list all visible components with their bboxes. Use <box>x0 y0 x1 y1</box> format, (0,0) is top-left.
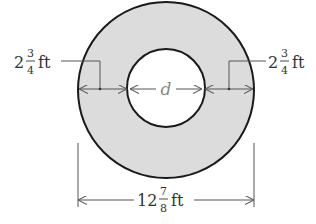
outer-diameter-unit: ft <box>171 191 184 210</box>
right-width-unit: ft <box>292 53 305 72</box>
inner-diameter-label: d <box>161 79 172 99</box>
left-width-label: 2 3 4 ft <box>14 47 51 77</box>
right-width-denominator: 4 <box>281 64 288 77</box>
right-width-numerator: 3 <box>281 47 288 60</box>
left-width-unit: ft <box>38 53 51 72</box>
left-width-whole: 2 <box>14 53 24 72</box>
outer-diameter-denominator: 8 <box>160 202 167 215</box>
outer-diameter-whole: 12 <box>137 191 157 210</box>
outer-diameter-numerator: 7 <box>160 185 167 198</box>
left-width-denominator: 4 <box>27 64 34 77</box>
annulus-diagram: d 2 3 4 ft 2 3 4 ft 12 7 8 ft <box>0 0 316 224</box>
right-width-whole: 2 <box>268 53 278 72</box>
right-width-label: 2 3 4 ft <box>268 47 305 77</box>
left-width-numerator: 3 <box>27 47 34 60</box>
